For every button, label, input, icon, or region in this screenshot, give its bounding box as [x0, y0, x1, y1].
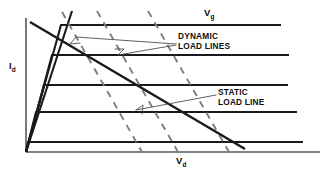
x-axis-label: Vd	[176, 155, 187, 166]
gate-voltage-label: Vg	[204, 7, 215, 18]
y-axis-label: Id	[9, 60, 16, 71]
load-line-figure: Vg Id Vd DYNAMIC LOAD LINES STATIC LOAD …	[0, 0, 333, 179]
dynamic-leader-upper	[76, 37, 176, 44]
vd-main: V	[176, 155, 183, 166]
characteristic-curve	[26, 142, 303, 152]
dynamic-load-lines-label: DYNAMIC LOAD LINES	[178, 32, 230, 52]
vd-subscript: d	[183, 161, 187, 168]
characteristic-curve	[26, 112, 297, 152]
dynamic-leader-lower	[118, 45, 176, 55]
figure-canvas	[0, 0, 333, 179]
vg-main: V	[204, 7, 211, 18]
dynamic-label-line2: LOAD LINES	[178, 42, 230, 52]
vg-subscript: g	[211, 13, 215, 20]
dynamic-load-line	[97, 11, 178, 152]
dynamic-label-leaders	[70, 37, 176, 55]
id-subscript: d	[12, 66, 16, 73]
static-label-line2: LOAD LINE	[218, 98, 265, 108]
static-load-line-label: STATIC LOAD LINE	[218, 88, 265, 108]
